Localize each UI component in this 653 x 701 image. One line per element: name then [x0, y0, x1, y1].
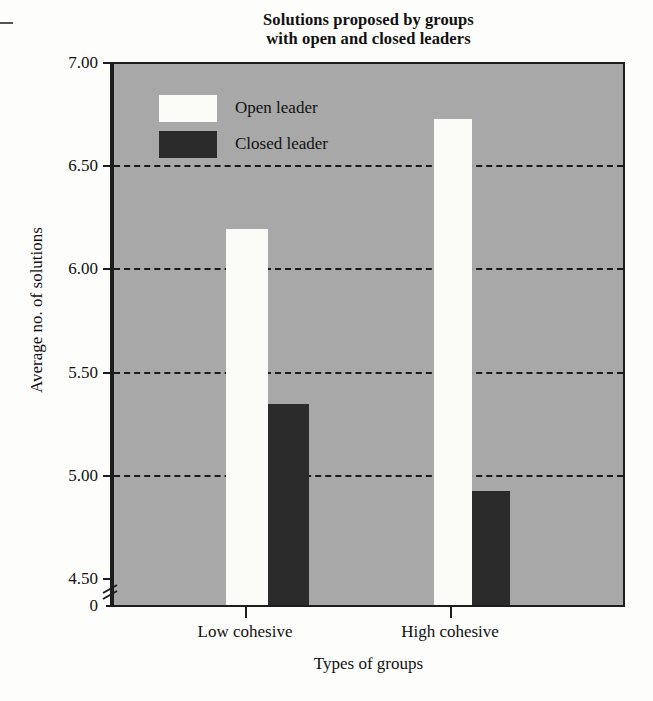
y-axis-break-icon [100, 577, 122, 601]
x-tick-label-low-cohesive: Low cohesive [145, 622, 345, 642]
y-tick-mark-5-50 [103, 372, 112, 374]
legend-label-closed-leader: Closed leader [235, 134, 328, 154]
chart-legend: Open leader Closed leader [159, 90, 328, 162]
legend-item-closed-leader: Closed leader [159, 126, 328, 162]
y-tick-label-5-00: 5.00 [40, 467, 98, 484]
y-tick-mark-6-50 [103, 165, 112, 167]
bar-closed-leader-low-cohesive [268, 404, 309, 605]
y-tick-mark-6-00 [103, 268, 112, 270]
chart-title-line-1: Solutions proposed by groups [112, 10, 625, 29]
legend-swatch-closed-leader [159, 131, 217, 158]
y-axis-title: Average no. of solutions [27, 195, 47, 425]
y-tick-mark-7-00 [103, 62, 112, 64]
y-tick-label-0: 0 [40, 597, 98, 614]
plot-area: Open leader Closed leader [112, 62, 625, 607]
bar-open-leader-low-cohesive [226, 229, 268, 605]
chart-title-line-2: with open and closed leaders [112, 29, 625, 48]
crop-mark [0, 22, 13, 24]
x-tick-label-high-cohesive: High cohesive [350, 622, 550, 642]
x-tick-mark-low-cohesive [245, 607, 247, 618]
y-tick-label-4-50: 4.50 [40, 570, 98, 587]
chart-figure: Solutions proposed by groups with open a… [0, 0, 653, 701]
legend-swatch-open-leader [159, 95, 217, 122]
y-tick-label-6-50: 6.50 [40, 157, 98, 174]
y-tick-label-6-00: 6.00 [40, 260, 98, 277]
gridline-5-00 [114, 475, 623, 477]
chart-title: Solutions proposed by groups with open a… [112, 10, 625, 48]
bar-open-leader-high-cohesive [434, 119, 472, 605]
y-tick-label-5-50: 5.50 [40, 364, 98, 381]
y-axis-line [110, 62, 112, 607]
legend-item-open-leader: Open leader [159, 90, 328, 126]
y-tick-mark-0 [106, 605, 112, 607]
x-tick-mark-high-cohesive [450, 607, 452, 618]
y-tick-mark-5-00 [103, 475, 112, 477]
y-tick-label-7-00: 7.00 [40, 54, 98, 71]
x-axis-title: Types of groups [112, 654, 625, 674]
gridline-5-50 [114, 372, 623, 374]
gridline-6-00 [114, 268, 623, 270]
gridline-6-50 [114, 165, 623, 167]
legend-label-open-leader: Open leader [235, 98, 318, 118]
bar-closed-leader-high-cohesive [472, 491, 510, 605]
